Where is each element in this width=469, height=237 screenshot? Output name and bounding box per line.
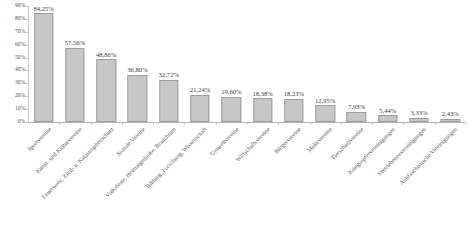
y-axis-tick-mark bbox=[25, 122, 28, 123]
y-axis-tick-label: 20% bbox=[0, 93, 25, 99]
category-label-text: Mulärvereine bbox=[306, 126, 334, 154]
category-label-text: Wirtschaftsvereine bbox=[234, 126, 271, 163]
bar-slot: 18,23% bbox=[278, 6, 309, 122]
bar-value-label: 57,56% bbox=[65, 39, 85, 46]
bar-slot: 18,38% bbox=[247, 6, 278, 122]
bar-slot: 2,43% bbox=[435, 6, 466, 122]
category-label-text: Tierschutzvereine bbox=[330, 126, 365, 161]
category-label-text: Soziale Vereine bbox=[115, 126, 147, 158]
bar-slot: 48,86% bbox=[91, 6, 122, 122]
bar-value-label: 36,80% bbox=[127, 66, 147, 73]
x-axis-tick-mark bbox=[91, 123, 92, 125]
x-axis-tick-mark bbox=[403, 123, 404, 125]
category-label-text: Umweltvereine bbox=[209, 126, 240, 157]
category-label-text: Antifaschistische Vereinigungen bbox=[399, 126, 459, 186]
bar-slot: 21,24% bbox=[184, 6, 215, 122]
bar-value-label: 48,86% bbox=[96, 51, 116, 58]
bar[interactable] bbox=[34, 13, 53, 122]
bar[interactable] bbox=[222, 97, 241, 122]
bar-slot: 32,72% bbox=[153, 6, 184, 122]
x-axis-tick-mark bbox=[435, 123, 436, 125]
category-label-text: Volksfeste, Heimatgedanke, Brauchtum bbox=[104, 126, 177, 199]
bar-value-label: 19,60% bbox=[221, 88, 241, 95]
x-axis-tick-mark bbox=[310, 123, 311, 125]
bar[interactable] bbox=[284, 99, 303, 122]
bar-value-label: 12,95% bbox=[315, 97, 335, 104]
y-axis-tick-label: 40% bbox=[0, 68, 25, 74]
bar[interactable] bbox=[253, 98, 272, 122]
bar[interactable] bbox=[409, 118, 428, 122]
bar-slot: 5,44% bbox=[372, 6, 403, 122]
x-axis-tick-mark bbox=[153, 123, 154, 125]
bar-value-label: 18,23% bbox=[284, 90, 304, 97]
bar-slot: 84,25% bbox=[28, 6, 59, 122]
bar[interactable] bbox=[347, 112, 366, 122]
bar-value-label: 18,38% bbox=[252, 90, 272, 97]
x-axis-tick-mark bbox=[59, 123, 60, 125]
x-axis-tick-mark bbox=[278, 123, 279, 125]
category-label-text: Kriegsopfervereinigungen bbox=[347, 126, 397, 176]
bar-slot: 7,93% bbox=[341, 6, 372, 122]
bar-value-label: 5,44% bbox=[379, 107, 396, 114]
bar[interactable] bbox=[159, 80, 178, 122]
x-axis-tick-mark bbox=[341, 123, 342, 125]
category-label-text: Bürgervereine bbox=[273, 126, 302, 155]
y-axis-tick-label: 90% bbox=[0, 3, 25, 9]
bar-slot: 36,80% bbox=[122, 6, 153, 122]
y-axis-tick-label: 80% bbox=[0, 16, 25, 22]
bar-slot: 12,95% bbox=[310, 6, 341, 122]
x-axis-tick-mark bbox=[216, 123, 217, 125]
bar-slot: 3,33% bbox=[403, 6, 434, 122]
x-axis-tick-mark bbox=[247, 123, 248, 125]
bar[interactable] bbox=[128, 75, 147, 122]
y-axis-tick-label: 0% bbox=[0, 119, 25, 125]
y-axis-tick-label: 30% bbox=[0, 81, 25, 87]
category-label-text: Feuerwehr, Zivil- u. Katastrophenschutz bbox=[41, 126, 115, 200]
bar[interactable] bbox=[65, 48, 84, 122]
y-axis-tick-label: 60% bbox=[0, 42, 25, 48]
x-axis-tick-mark bbox=[122, 123, 123, 125]
bar-value-label: 32,72% bbox=[159, 71, 179, 78]
bar[interactable] bbox=[190, 95, 209, 122]
category-label-text: Bildung, Forschung, Wissenschaft bbox=[145, 126, 209, 190]
bar-slot: 57,56% bbox=[59, 6, 90, 122]
bar-value-label: 3,33% bbox=[411, 109, 428, 116]
x-axis-tick-mark bbox=[466, 123, 467, 125]
y-axis-tick-label: 10% bbox=[0, 106, 25, 112]
bar[interactable] bbox=[441, 119, 460, 122]
category-label-text: Kunst- und Kulturvereine bbox=[35, 126, 84, 175]
x-axis-tick-mark bbox=[372, 123, 373, 125]
y-axis-tick-labels: 90%80%70%60%50%40%30%20%10%0% bbox=[0, 0, 28, 123]
x-axis-tick-mark bbox=[184, 123, 185, 125]
bar[interactable] bbox=[316, 105, 335, 122]
y-axis-tick-label: 70% bbox=[0, 29, 25, 35]
plot-area: 84,25%57,56%48,86%36,80%32,72%21,24%19,6… bbox=[28, 6, 466, 122]
bar[interactable] bbox=[97, 59, 116, 122]
bar[interactable] bbox=[378, 115, 397, 122]
bar-value-label: 2,43% bbox=[442, 110, 459, 117]
bar-value-label: 7,93% bbox=[348, 103, 365, 110]
bar-slot: 19,60% bbox=[216, 6, 247, 122]
bar-chart: 90%80%70%60%50%40%30%20%10%0% 84,25%57,5… bbox=[0, 0, 469, 237]
y-axis-tick-label: 50% bbox=[0, 55, 25, 61]
bar-value-label: 84,25% bbox=[33, 5, 53, 12]
category-label-text: Vertriebenenvereinigungen bbox=[376, 126, 427, 177]
category-label-text: Sportvereine bbox=[26, 126, 53, 153]
bar-value-label: 21,24% bbox=[190, 86, 210, 93]
